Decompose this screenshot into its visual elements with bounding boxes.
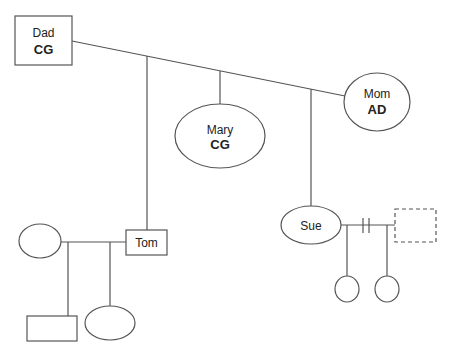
node-mary[interactable]: Mary CG: [175, 104, 265, 168]
sue-name: Sue: [300, 219, 322, 233]
mary-tag: CG: [210, 137, 230, 152]
node-tom-child-2[interactable]: [85, 306, 135, 340]
node-sue-child-1[interactable]: [335, 276, 359, 302]
dad-tag: CG: [34, 42, 54, 57]
node-tom[interactable]: Tom: [126, 230, 167, 255]
node-tom-child-1[interactable]: [27, 316, 77, 341]
node-sue-child-2[interactable]: [375, 276, 399, 302]
mom-tag: AD: [368, 102, 387, 117]
node-sue-partner[interactable]: [395, 209, 436, 242]
dad-name: Dad: [32, 26, 54, 40]
tom-name: Tom: [135, 236, 158, 250]
node-mom[interactable]: Mom AD: [344, 73, 410, 131]
mom-name: Mom: [364, 87, 391, 101]
node-tom-partner[interactable]: [19, 224, 61, 258]
node-sue[interactable]: Sue: [281, 206, 341, 244]
node-dad[interactable]: Dad CG: [15, 16, 72, 65]
mary-name: Mary: [207, 123, 234, 137]
genogram-diagram: Dad CG Mom AD Mary CG Tom Sue: [0, 0, 449, 357]
dad-mom-marriage-line: [72, 41, 345, 96]
